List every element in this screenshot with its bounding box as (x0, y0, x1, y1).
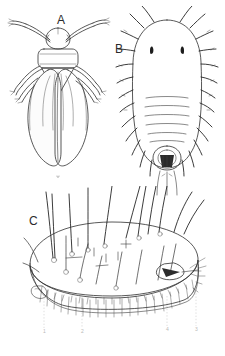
leader-label-2: 2 (81, 329, 84, 334)
panel-a-illustration (4, 4, 116, 189)
leader-label-4: 4 (166, 327, 169, 332)
panel-letter-a: A (57, 14, 65, 26)
panel-letter-b: B (115, 43, 123, 55)
leader-label-1: 1 (43, 329, 46, 334)
figure-plate: A (0, 0, 225, 356)
leader-label-3: 3 (195, 327, 198, 332)
panel-letter-c: C (29, 215, 38, 227)
panel-b-illustration (110, 6, 225, 196)
panel-c-illustration (8, 186, 220, 346)
